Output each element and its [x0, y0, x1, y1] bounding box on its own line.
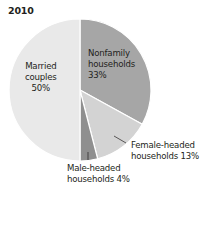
label-nonfamily-line3: 33%	[88, 70, 135, 81]
label-male-line1: Male-headed	[67, 163, 130, 174]
label-female: Female-headed households 13%	[131, 140, 199, 162]
label-nonfamily-line2: households	[88, 59, 135, 70]
label-married-line1: Married	[25, 61, 57, 72]
label-female-line1: Female-headed	[131, 140, 199, 151]
label-married: Married couples 50%	[25, 61, 57, 94]
label-male: Male-headed households 4%	[67, 163, 130, 185]
label-male-line2: households 4%	[67, 174, 130, 185]
label-nonfamily-line1: Nonfamily	[88, 48, 135, 59]
label-married-line3: 50%	[25, 83, 57, 94]
label-married-line2: couples	[25, 72, 57, 83]
label-female-line2: households 13%	[131, 151, 199, 162]
label-nonfamily: Nonfamily households 33%	[88, 48, 135, 81]
